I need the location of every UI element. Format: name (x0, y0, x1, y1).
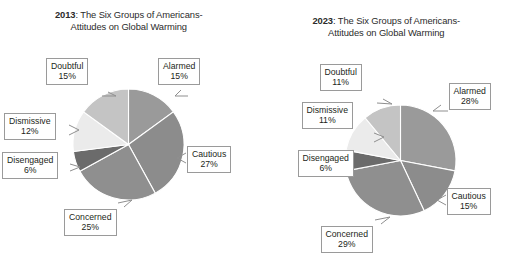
callout-percent: 29% (326, 239, 369, 249)
chart-title-2023: 2023: The Six Groups of Americans- Attit… (258, 15, 515, 40)
callout-cautious-2023[interactable]: Cautious 15% (447, 188, 491, 215)
callout-label: Alarmed (163, 61, 195, 71)
callout-alarmed-2023[interactable]: Alarmed 28% (449, 83, 491, 110)
chart-title-year: 2013 (55, 9, 75, 20)
callout-percent: 12% (9, 126, 51, 136)
chart-title-rest: : The Six Groups of Americans- (333, 15, 460, 26)
callout-dismissive-2023[interactable]: Dismissive 11% (302, 102, 354, 129)
callout-percent: 27% (192, 159, 226, 169)
callout-percent: 28% (454, 96, 486, 106)
callout-percent: 11% (325, 77, 357, 87)
callout-label: Cautious (452, 191, 486, 201)
pie-slice-alarmed[interactable] (400, 105, 456, 171)
callout-percent: 15% (452, 201, 486, 211)
pie-chart-2013 (72, 88, 185, 201)
chart-title-line2: Attitudes on Global Warming (71, 21, 187, 32)
callout-alarmed-2013[interactable]: Alarmed 15% (158, 58, 200, 85)
callout-disengaged-2023[interactable]: Disengaged 6% (298, 150, 354, 177)
chart-title-year: 2023 (312, 15, 332, 26)
callout-disengaged-2013[interactable]: Disengaged 6% (2, 152, 58, 179)
callout-label: Cautious (192, 149, 226, 159)
callout-label: Doubtful (325, 67, 357, 77)
callout-percent: 15% (163, 71, 195, 81)
callout-label: Disengaged (303, 153, 349, 163)
chart-panel-2013: 2013: The Six Groups of Americans- Attit… (0, 0, 258, 260)
callout-percent: 25% (69, 222, 112, 232)
callout-label: Dismissive (9, 116, 51, 126)
callout-label: Concerned (69, 212, 112, 222)
callout-label: Alarmed (454, 86, 486, 96)
callout-concerned-2013[interactable]: Concerned 25% (64, 209, 117, 236)
chart-panel-2023: 2023: The Six Groups of Americans- Attit… (258, 0, 515, 260)
callout-percent: 15% (51, 71, 83, 81)
six-americas-pie-figure: 2013: The Six Groups of Americans- Attit… (0, 0, 515, 260)
callout-label: Concerned (326, 229, 369, 239)
callout-percent: 6% (7, 165, 53, 175)
callout-concerned-2023[interactable]: Concerned 29% (321, 226, 374, 253)
callout-label: Disengaged (7, 155, 53, 165)
pie-svg-2013 (72, 88, 185, 201)
pie-chart-2023 (344, 104, 457, 217)
pie-svg-2023 (344, 104, 457, 217)
callout-percent: 11% (307, 115, 349, 125)
callout-percent: 6% (303, 163, 349, 173)
chart-title-rest: : The Six Groups of Americans- (75, 9, 202, 20)
callout-label: Dismissive (307, 105, 349, 115)
callout-label: Doubtful (51, 61, 83, 71)
callout-dismissive-2013[interactable]: Dismissive 12% (4, 113, 56, 140)
callout-cautious-2013[interactable]: Cautious 27% (187, 146, 231, 173)
chart-title-2013: 2013: The Six Groups of Americans- Attit… (0, 9, 258, 34)
callout-doubtful-2013[interactable]: Doubtful 15% (46, 58, 88, 85)
callout-doubtful-2023[interactable]: Doubtful 11% (320, 64, 362, 91)
chart-title-line2: Attitudes on Global Warming (328, 27, 444, 38)
